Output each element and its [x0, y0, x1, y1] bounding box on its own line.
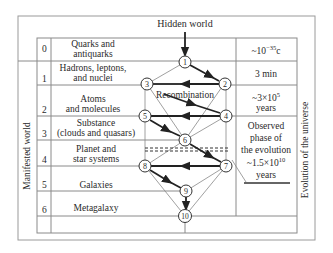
row-label-1b: and nuclei — [73, 73, 113, 83]
row-index-5: 5 — [42, 180, 47, 190]
node-7-label: 7 — [224, 162, 228, 171]
row-label-4b: star systems — [73, 154, 119, 164]
row-label-2a: Atoms — [80, 94, 106, 104]
time-row2: ~3×105 — [252, 91, 280, 103]
node-1-label: 1 — [183, 58, 187, 67]
observed-value: ~1.5×1010 — [247, 156, 285, 168]
node-5-label: 5 — [143, 112, 147, 121]
node-9-label: 9 — [184, 187, 188, 196]
row-index-0: 0 — [42, 44, 47, 54]
row-label-5: Galaxies — [79, 180, 113, 190]
row-label-1a: Hadrons, leptons, — [60, 63, 127, 73]
row-label-3b: (clouds and quasars) — [57, 128, 135, 139]
node-4-label: 4 — [224, 112, 228, 121]
time-row2-unit: years — [256, 103, 276, 113]
row-label-2b: and molecules — [66, 104, 121, 114]
time-row1: 3 min — [255, 69, 277, 79]
node-8-label: 8 — [143, 162, 147, 171]
row-label-6: Metagalaxy — [74, 203, 119, 213]
observed-line3: the evolution — [241, 145, 291, 155]
recombination-label: Recombination — [156, 90, 214, 100]
observed-line1: Observed — [248, 121, 285, 131]
row-index-2: 2 — [42, 105, 47, 115]
observed-unit: years — [256, 170, 276, 180]
time-row0: ~10−35c — [251, 44, 280, 56]
observed-phase-boundary — [145, 148, 229, 151]
row-label-0b: antiquarks — [73, 49, 113, 59]
node-10-label: 10 — [181, 212, 189, 221]
row-label-3a: Substance — [77, 118, 116, 128]
node-2-label: 2 — [223, 80, 227, 89]
row-label-0a: Quarks and — [71, 39, 115, 49]
row-index-4: 4 — [42, 155, 47, 165]
manifested-world-label: Manifested world — [22, 122, 32, 190]
observed-line2: phase of — [250, 133, 283, 143]
node-6-label: 6 — [183, 136, 187, 145]
evolution-label: Evolution of the universe — [300, 102, 310, 198]
universe-evolution-diagram: 1 2 3 4 5 6 7 8 9 10 Hidden world Recomb… — [0, 0, 333, 253]
row-index-1: 1 — [42, 74, 47, 84]
row-index-3: 3 — [42, 129, 47, 139]
row-label-4a: Planet and — [76, 144, 116, 154]
row-index-6: 6 — [42, 205, 47, 215]
hidden-world-title: Hidden world — [157, 18, 212, 29]
node-3-label: 3 — [145, 80, 149, 89]
